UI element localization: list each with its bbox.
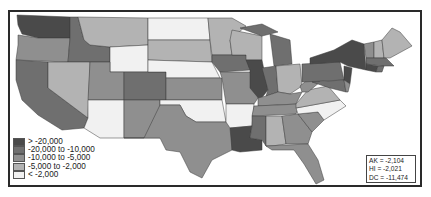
inset-value-dc: DC = -11,474 <box>369 174 413 182</box>
state-WA <box>17 15 70 38</box>
inset-value-hi: HI = -2,021 <box>369 165 413 173</box>
state-AR <box>226 104 254 128</box>
inset-value-ak: AK = -2,104 <box>369 157 413 165</box>
legend: > -20,000 -20,000 to -10,000 -10,000 to … <box>13 138 95 179</box>
state-TN <box>252 104 300 116</box>
legend-swatch <box>13 171 25 179</box>
legend-label: < -2,000 <box>28 171 58 179</box>
state-AZ <box>84 100 124 138</box>
state-SD <box>148 40 212 62</box>
state-VT <box>364 42 374 58</box>
state-PA <box>302 62 344 82</box>
state-FL <box>266 144 324 184</box>
state-KS <box>166 78 222 100</box>
state-MI <box>270 34 292 66</box>
state-OR <box>16 35 70 62</box>
state-ND <box>148 18 210 40</box>
state-CO <box>124 72 166 100</box>
state-OH <box>276 64 302 94</box>
legend-swatch <box>13 146 25 154</box>
legend-swatch <box>13 163 25 171</box>
state-IA <box>212 55 250 72</box>
state-WY <box>110 45 148 72</box>
state-MT <box>78 17 148 47</box>
inset-values-box: AK = -2,104 HI = -2,021 DC = -11,474 <box>366 155 416 183</box>
legend-swatch <box>13 138 25 146</box>
state-ME <box>382 28 412 58</box>
legend-swatch <box>13 154 25 162</box>
legend-item: < -2,000 <box>13 171 95 179</box>
